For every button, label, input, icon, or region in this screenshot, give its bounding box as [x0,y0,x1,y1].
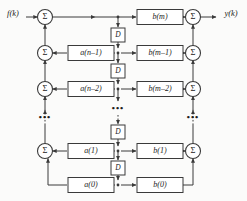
box-b-0-label: b(0) [153,180,167,189]
sum-left-2-label: Σ [43,47,48,57]
sum-left-3-label: Σ [43,83,48,93]
ellipsis-right: ••• [187,112,199,122]
sum-left-1-label: Σ [43,11,48,21]
box-b-1-label: b(1) [153,146,167,155]
box-b-m-2-label: b(m–2) [148,84,171,93]
delay-box-4-label: D [114,163,121,172]
junction-center-row5 [117,184,120,187]
ellipsis-left: ••• [39,112,51,122]
delay-box-1-label: D [114,30,121,39]
delay-box-2-label: D [114,66,121,75]
delay-box-3-label: D [114,127,121,136]
sum-right-4-label: Σ [191,145,196,155]
sum-right-3-label: Σ [191,83,196,93]
sum-right-2-label: Σ [191,47,196,57]
sum-right-1-label: Σ [191,11,196,21]
box-a-n-1-label: a(n–1) [80,48,102,57]
box-b-m-label: b(m) [152,12,167,21]
ellipsis-center: ••• [112,103,124,113]
box-b-m-1-label: b(m–1) [148,48,171,57]
filter-block-diagram: ••• ••• ••• Σ Σ Σ Σ Σ Σ Σ Σ a(n–1) a(n–2… [0,0,247,201]
diagram-canvas: ••• ••• ••• Σ Σ Σ Σ Σ Σ Σ Σ a(n–1) a(n–2… [0,0,247,201]
input-signal-label: f(k) [7,8,19,18]
box-a-1-label: a(1) [84,146,98,155]
box-a-0-label: a(0) [84,180,98,189]
output-signal-label: y(k) [223,8,237,18]
junction-center-row1 [117,16,120,19]
sum-left-4-label: Σ [43,145,48,155]
box-a-n-2-label: a(n–2) [80,84,102,93]
